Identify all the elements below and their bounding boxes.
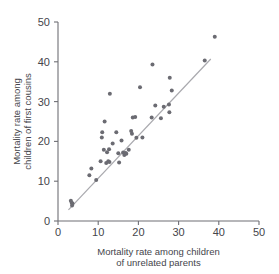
data-point: [213, 35, 217, 39]
data-point: [100, 130, 104, 134]
data-point: [150, 63, 154, 67]
x-tick-label: 0: [55, 226, 61, 238]
data-point: [134, 136, 138, 140]
trend-line-path: [68, 59, 210, 210]
y-tick-label: 10: [38, 175, 50, 187]
data-point: [114, 130, 118, 134]
x-tick-label: 10: [92, 226, 104, 238]
data-point: [87, 173, 91, 177]
x-axis-title-line2: of unrelated parents: [116, 257, 201, 268]
data-point: [70, 203, 74, 207]
y-tick-label: 30: [38, 96, 50, 108]
y-tick-label: 40: [38, 56, 50, 68]
data-point: [168, 76, 172, 80]
data-point: [102, 148, 106, 152]
data-points: [69, 35, 217, 208]
data-point: [153, 104, 157, 108]
y-tick-label: 50: [38, 16, 50, 28]
data-point: [94, 178, 98, 182]
data-point: [159, 116, 163, 120]
data-point: [138, 85, 142, 89]
data-point: [120, 139, 124, 143]
x-axis-title-line1: Mortality rate among children: [97, 246, 220, 257]
data-point: [124, 152, 128, 156]
data-point: [162, 105, 166, 109]
data-point: [100, 135, 104, 139]
x-tick-label: 50: [253, 226, 265, 238]
data-point: [130, 132, 134, 136]
y-tick-label: 0: [44, 215, 50, 227]
data-point: [203, 59, 207, 63]
data-point: [107, 147, 111, 151]
data-point: [117, 160, 121, 164]
data-point: [108, 92, 112, 96]
data-point: [127, 148, 131, 152]
data-point: [89, 166, 93, 170]
data-point: [170, 88, 174, 92]
data-point: [167, 110, 171, 114]
data-point: [150, 116, 154, 120]
data-point: [99, 159, 103, 163]
plot-area: 0102030405001020304050 Mortality rate am…: [0, 0, 279, 274]
data-point: [133, 115, 137, 119]
y-tick-label: 20: [38, 135, 50, 147]
x-tick-label: 40: [213, 226, 225, 238]
trend-line: [68, 59, 210, 210]
y-axis-title-line1: Mortality rate among: [11, 78, 22, 165]
scatter-chart: 0102030405001020304050 Mortality rate am…: [0, 0, 279, 274]
x-tick-label: 20: [132, 226, 144, 238]
data-point: [116, 151, 120, 155]
data-point: [103, 120, 107, 124]
data-point: [167, 102, 171, 106]
y-axis-title-line2: children of first cousins: [22, 73, 33, 170]
data-point: [107, 160, 111, 164]
x-tick-label: 30: [172, 226, 184, 238]
data-point: [111, 141, 115, 145]
data-point: [140, 135, 144, 139]
